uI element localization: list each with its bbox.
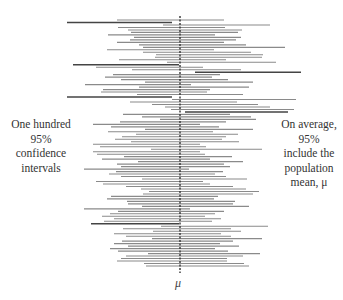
left-annotation-line: 95% [2, 132, 80, 147]
left-annotation-line: confidence [2, 146, 80, 161]
left-annotation-line: intervals [2, 161, 80, 176]
right-annotation-line: population [276, 161, 342, 176]
left-annotation: One hundred 95% confidence intervals [2, 117, 80, 175]
interval-lines [67, 20, 301, 266]
right-annotation-line: On average, [276, 117, 342, 132]
right-annotation-line: include the [276, 146, 342, 161]
mu-axis-label: μ [175, 276, 181, 291]
left-annotation-line: One hundred [2, 117, 80, 132]
right-annotation-line: mean, μ [276, 175, 342, 190]
right-annotation: On average, 95% include the population m… [276, 117, 342, 190]
right-annotation-line: 95% [276, 132, 342, 147]
